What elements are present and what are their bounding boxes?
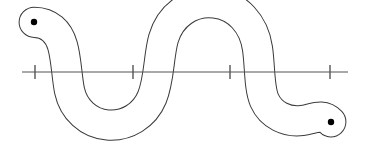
snake-band-group: [34, 3, 331, 125]
figure-container: [0, 0, 367, 146]
snake-interior: [34, 3, 331, 125]
figure-canvas: [0, 0, 367, 146]
endpoint-dot-right: [328, 119, 334, 125]
endpoint-dot-left: [31, 19, 37, 25]
